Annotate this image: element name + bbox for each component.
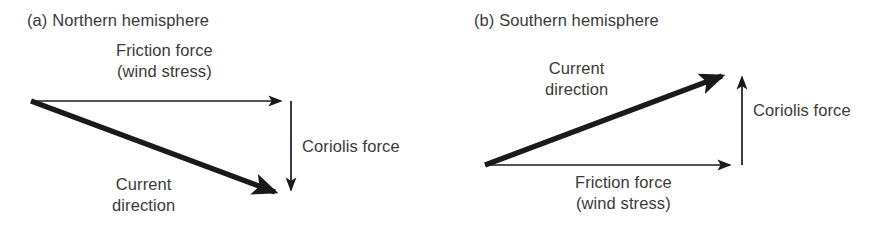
panel-southern-hemisphere: (b) Southern hemisphere Current directio… [445, 0, 889, 225]
ekman-force-balance-figure: (a) Northern hemisphere Friction force (… [0, 0, 889, 225]
friction-force-label-southern: Friction force (wind stress) [575, 172, 672, 214]
current-direction-label-southern: Current direction [545, 58, 608, 100]
current-direction-label-line1: Current [112, 174, 175, 195]
panel-northern-hemisphere: (a) Northern hemisphere Friction force (… [0, 0, 445, 225]
current-direction-label-line2: direction [112, 195, 175, 216]
friction-force-label-line1: Friction force [575, 172, 672, 193]
friction-force-label-line2: (wind stress) [575, 193, 672, 214]
friction-force-label-northern: Friction force (wind stress) [116, 40, 213, 82]
coriolis-force-label-northern: Coriolis force [302, 136, 400, 157]
panel-title-northern: (a) Northern hemisphere [27, 10, 209, 30]
panel-title-southern: (b) Southern hemisphere [474, 10, 659, 30]
coriolis-force-label-southern: Coriolis force [753, 100, 851, 121]
friction-force-label-line1: Friction force [116, 40, 213, 61]
vector-diagram-northern [0, 0, 445, 225]
current-direction-label-northern: Current direction [112, 174, 175, 216]
current-direction-label-line2: direction [545, 79, 608, 100]
friction-force-label-line2: (wind stress) [116, 61, 213, 82]
current-direction-label-line1: Current [545, 58, 608, 79]
